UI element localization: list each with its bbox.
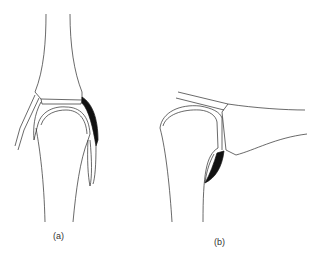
joint-diagram	[0, 0, 318, 256]
panel-b-drawing	[160, 92, 307, 222]
panel-b-label: (b)	[214, 237, 225, 247]
panel-a-drawing	[15, 14, 98, 222]
panel-a-label: (a)	[53, 231, 64, 241]
